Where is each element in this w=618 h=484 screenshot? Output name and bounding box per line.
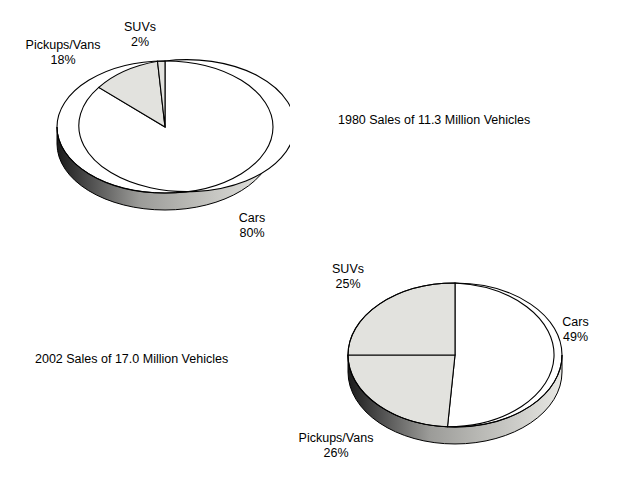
- cropped-header-artifact: [0, 0, 618, 9]
- pie-chart-2002: [333, 274, 581, 456]
- pie-2002-label-pickups: Pickups/Vans 26%: [281, 431, 391, 460]
- pie-1980-label-cars-name: Cars: [239, 211, 265, 225]
- pie-2002-slice-pickups: [348, 355, 455, 427]
- pie-1980-label-suvs-percent: 2%: [110, 35, 170, 50]
- pie-2002-label-cars-percent: 49%: [548, 330, 603, 345]
- pie-2002-label-suvs: SUVs 25%: [318, 262, 378, 291]
- pie-2002-label-pickups-name: Pickups/Vans: [299, 431, 374, 445]
- figure-canvas: Pickups/Vans 18% SUVs 2% Cars 80% 1980 S…: [0, 0, 618, 484]
- pie-1980-label-pickups: Pickups/Vans 18%: [8, 38, 118, 67]
- pie-2002-label-suvs-percent: 25%: [318, 277, 378, 292]
- pie-1980-label-pickups-name: Pickups/Vans: [26, 38, 101, 52]
- pie-2002-label-cars-name: Cars: [562, 315, 588, 329]
- pie-1980-caption: 1980 Sales of 11.3 Million Vehicles: [338, 113, 530, 127]
- pie-1980-label-suvs-name: SUVs: [124, 20, 156, 34]
- pie-1980-face: [57, 60, 290, 193]
- pie-2002-label-cars: Cars 49%: [548, 315, 603, 344]
- cropped-header-text: [28, 0, 31, 5]
- pie-2002-label-suvs-name: SUVs: [332, 262, 364, 276]
- pie-2002-label-pickups-percent: 26%: [281, 446, 391, 461]
- pie-1980-label-pickups-percent: 18%: [8, 53, 118, 68]
- pie-1980-label-cars: Cars 80%: [222, 211, 282, 240]
- pie-1980-label-cars-percent: 80%: [222, 226, 282, 241]
- pie-2002-slice-suvs: [348, 283, 455, 355]
- pie-2002-face: [348, 283, 562, 427]
- pie-1980-label-suvs: SUVs 2%: [110, 20, 170, 49]
- pie-2002-caption: 2002 Sales of 17.0 Million Vehicles: [35, 352, 228, 366]
- pie-chart-1980: [40, 50, 290, 225]
